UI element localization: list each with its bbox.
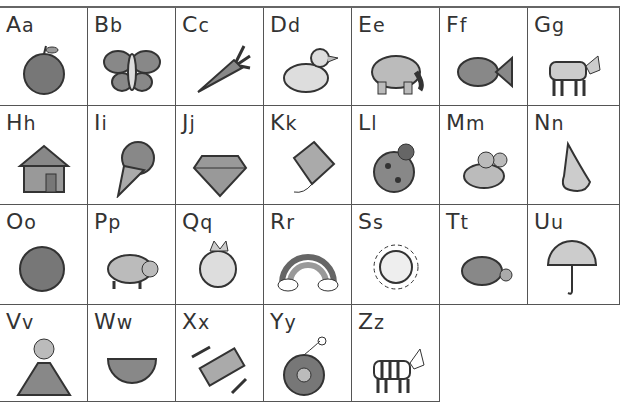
letter-label: Ee <box>358 12 386 37</box>
carrot-icon <box>188 38 252 100</box>
cell-n: Nn <box>528 106 620 205</box>
letter-label: Mm <box>446 110 486 135</box>
cell-c: Cc <box>176 8 264 106</box>
cell-o: Oo <box>0 205 88 305</box>
jewel-icon <box>188 136 252 198</box>
pig-icon <box>100 235 164 297</box>
letter-label: Pp <box>94 209 121 234</box>
letter-label: Hh <box>6 110 37 135</box>
cell-x: Xx <box>176 305 264 402</box>
watermelon-icon <box>100 335 164 397</box>
kite-icon <box>276 136 340 198</box>
sun-icon <box>364 235 428 297</box>
letter-label: Xx <box>182 309 210 334</box>
cell-z: Zz <box>352 305 440 402</box>
letter-label: Cc <box>182 12 210 37</box>
orange-icon <box>12 235 76 297</box>
letter-label: Nn <box>534 110 565 135</box>
letter-label: Vv <box>6 309 34 334</box>
letter-label: Oo <box>6 209 37 234</box>
cell-b: Bb <box>88 8 176 106</box>
cell-i: Ii <box>88 106 176 205</box>
letter-label: Ii <box>94 110 108 135</box>
cell-a: Aa <box>0 8 88 106</box>
letter-label: Gg <box>534 12 565 37</box>
cell-t: Tt <box>440 205 528 305</box>
alphabet-chart: AaBbCcDdEeFfGgHhIiJjKkLlMmNnOoPpQqRrSsTt… <box>0 6 620 400</box>
ladybug-icon <box>364 136 428 198</box>
elephant-icon <box>364 38 428 100</box>
letter-label: Jj <box>182 110 196 135</box>
goat-icon <box>540 38 604 100</box>
turtle-icon <box>452 235 516 297</box>
letter-label: Qq <box>182 209 213 234</box>
letter-label: Tt <box>446 209 469 234</box>
cell-v: Vv <box>0 305 88 402</box>
letter-label: Yy <box>270 309 297 334</box>
ice-cream-icon <box>100 136 164 198</box>
umbrella-icon <box>540 235 604 297</box>
cell-s: Ss <box>352 205 440 305</box>
cell-w: Ww <box>88 305 176 402</box>
house-icon <box>12 136 76 198</box>
letter-label: Bb <box>94 12 123 37</box>
cell-m: Mm <box>440 106 528 205</box>
cell-l: Ll <box>352 106 440 205</box>
yo-yo-icon <box>276 335 340 397</box>
nose-icon <box>540 136 604 198</box>
rainbow-icon <box>276 235 340 297</box>
letter-label: Uu <box>534 209 564 234</box>
letter-label: Kk <box>270 110 297 135</box>
queen-icon <box>188 235 252 297</box>
duck-icon <box>276 38 340 100</box>
letter-label: Ww <box>94 309 133 334</box>
cell-u: Uu <box>528 205 620 305</box>
cell-y: Yy <box>264 305 352 402</box>
mouse-icon <box>452 136 516 198</box>
letter-label: Ff <box>446 12 467 37</box>
fish-icon <box>452 38 516 100</box>
letter-label: Aa <box>6 12 35 37</box>
volcano-icon <box>12 335 76 397</box>
letter-label: Zz <box>358 309 385 334</box>
xylophone-icon <box>188 335 252 397</box>
cell-f: Ff <box>440 8 528 106</box>
letter-label: Rr <box>270 209 295 234</box>
apple-icon <box>12 38 76 100</box>
cell-k: Kk <box>264 106 352 205</box>
cell-h: Hh <box>0 106 88 205</box>
cell-e: Ee <box>352 8 440 106</box>
letter-label: Ss <box>358 209 384 234</box>
letter-label: Ll <box>358 110 378 135</box>
zebra-icon <box>364 335 428 397</box>
cell-p: Pp <box>88 205 176 305</box>
cell-r: Rr <box>264 205 352 305</box>
cell-g: Gg <box>528 8 620 106</box>
letter-label: Dd <box>270 12 301 37</box>
cell-j: Jj <box>176 106 264 205</box>
cell-q: Qq <box>176 205 264 305</box>
butterfly-icon <box>100 38 164 100</box>
cell-d: Dd <box>264 8 352 106</box>
